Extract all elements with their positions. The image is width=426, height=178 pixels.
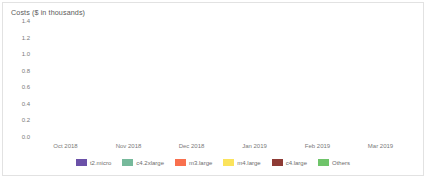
y-axis-tick: 1.4 [22,18,30,24]
legend-label: t2.micro [90,160,111,166]
y-axis-tick: 0.4 [22,101,30,107]
legend-item[interactable]: t2.micro [76,159,111,166]
legend-item[interactable]: c4.2xlarge [122,159,164,166]
x-axis-tick: Oct 2018 [53,143,77,149]
x-axis-tick: Dec 2018 [179,143,205,149]
cost-chart-card: Costs ($ in thousands) 1.41.21.00.80.60.… [0,0,426,178]
legend-label: Others [332,160,350,166]
legend-swatch-icon [76,159,87,166]
legend-label: c4.large [286,160,307,166]
legend-swatch-icon [223,159,234,166]
legend-item[interactable]: Others [318,159,350,166]
bar-groups: Oct 2018Nov 2018Dec 2018Jan 2019Feb 2019… [34,21,412,137]
y-axis-tick: 1.0 [22,51,30,57]
legend-label: c4.2xlarge [136,160,164,166]
x-axis-tick: Mar 2019 [368,143,393,149]
legend-label: m4.large [237,160,260,166]
chart-legend: t2.microc4.2xlargem3.largem4.largec4.lar… [0,159,426,166]
y-axis-tick: 0.8 [22,68,30,74]
y-axis-tick: 0.0 [22,134,30,140]
x-axis-tick: Feb 2019 [305,143,330,149]
bar-group[interactable]: Feb 2019 [295,21,341,137]
plot-area: 1.41.21.00.80.60.40.20.0 Oct 2018Nov 201… [34,21,412,137]
bar-group[interactable]: Oct 2018 [43,21,89,137]
chart-title: Costs ($ in thousands) [11,8,85,17]
bar-group[interactable]: Mar 2019 [358,21,404,137]
x-axis-tick: Jan 2019 [242,143,267,149]
x-axis-tick: Nov 2018 [116,143,142,149]
bar-group[interactable]: Dec 2018 [169,21,215,137]
bar-group[interactable]: Jan 2019 [232,21,278,137]
y-axis-tick: 0.2 [22,117,30,123]
legend-swatch-icon [175,159,186,166]
bar-group[interactable]: Nov 2018 [106,21,152,137]
y-axis-tick: 1.2 [22,35,30,41]
legend-item[interactable]: m4.large [223,159,260,166]
legend-item[interactable]: c4.large [272,159,307,166]
legend-swatch-icon [318,159,329,166]
legend-label: m3.large [189,160,212,166]
legend-swatch-icon [272,159,283,166]
legend-swatch-icon [122,159,133,166]
legend-item[interactable]: m3.large [175,159,212,166]
y-axis-tick: 0.6 [22,84,30,90]
